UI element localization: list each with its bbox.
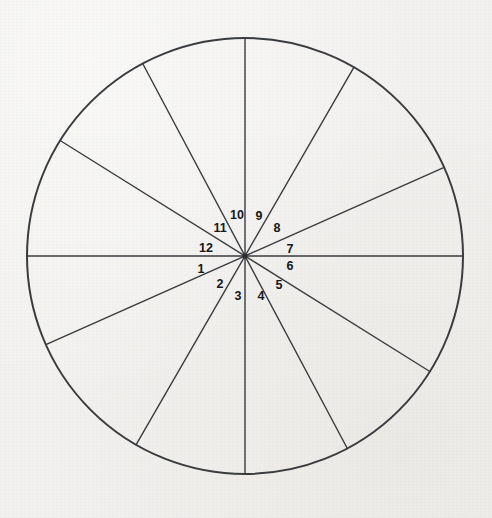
center-point	[242, 253, 247, 258]
sector-label-6: 6	[287, 259, 294, 273]
sector-circle-diagram: 123456789101112	[0, 0, 492, 518]
sector-label-2: 2	[217, 277, 224, 291]
sector-label-12: 12	[199, 241, 213, 255]
sector-label-8: 8	[274, 221, 281, 235]
sector-label-1: 1	[198, 262, 205, 276]
sector-label-5: 5	[276, 278, 283, 292]
sector-label-3: 3	[235, 289, 242, 303]
sector-label-10: 10	[230, 208, 244, 222]
figure-root: 123456789101112	[0, 0, 492, 518]
sector-label-11: 11	[213, 221, 226, 235]
sector-label-9: 9	[256, 209, 263, 223]
sector-label-7: 7	[287, 242, 294, 256]
sector-label-4: 4	[258, 289, 265, 303]
